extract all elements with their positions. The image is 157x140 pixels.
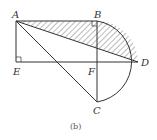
geometry-figure: A B E F D C (b) [0, 0, 157, 140]
diagram-canvas: A B E F D C (b) [0, 0, 157, 140]
label-A: A [11, 9, 19, 20]
right-angle-mark-E [16, 57, 21, 62]
label-C: C [93, 105, 101, 116]
label-E: E [12, 66, 21, 77]
label-F: F [87, 66, 96, 77]
figure-caption: (b) [70, 122, 81, 131]
label-B: B [93, 9, 101, 20]
label-D: D [140, 57, 149, 68]
